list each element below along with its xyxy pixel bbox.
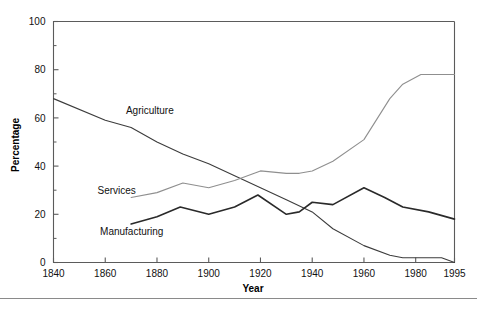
- x-tick-label-1880: 1880: [146, 268, 169, 279]
- y-tick-label-60: 60: [34, 113, 46, 124]
- x-tick-label-1995: 1995: [443, 268, 466, 279]
- series-line-services: [131, 75, 454, 198]
- y-tick-label-0: 0: [40, 257, 46, 268]
- x-axis-major-ticks: [54, 258, 455, 263]
- y-tick-label-20: 20: [34, 209, 46, 220]
- series-inline-labels: AgricultureServicesManufacturing: [97, 105, 174, 237]
- series-label-services: Services: [97, 185, 135, 196]
- line-chart-svg: 020406080100 184018601880190019201940196…: [0, 0, 477, 311]
- series-line-manufacturing: [131, 188, 454, 224]
- y-axis-title: Percentage: [10, 118, 21, 172]
- y-tick-label-100: 100: [29, 16, 46, 27]
- series-line-agriculture: [54, 99, 455, 263]
- x-tick-label-1980: 1980: [405, 268, 428, 279]
- series-label-manufacturing: Manufacturing: [100, 226, 163, 237]
- x-tick-label-1840: 1840: [42, 268, 65, 279]
- footer-divider: [0, 298, 477, 299]
- y-axis-tick-labels: 020406080100: [29, 16, 46, 268]
- x-axis-title: Year: [242, 283, 263, 294]
- x-tick-label-1900: 1900: [198, 268, 221, 279]
- x-tick-label-1920: 1920: [249, 268, 272, 279]
- chart-figure: 020406080100 184018601880190019201940196…: [0, 0, 477, 311]
- series-label-agriculture: Agriculture: [126, 105, 174, 116]
- x-tick-label-1860: 1860: [94, 268, 117, 279]
- x-axis-tick-labels: 184018601880190019201940196019801995: [42, 268, 466, 279]
- y-tick-label-80: 80: [34, 64, 46, 75]
- x-tick-label-1960: 1960: [353, 268, 376, 279]
- x-tick-label-1940: 1940: [301, 268, 324, 279]
- y-tick-label-40: 40: [34, 161, 46, 172]
